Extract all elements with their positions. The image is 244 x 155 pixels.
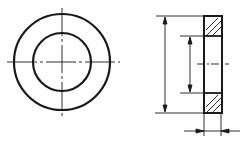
- section-view: [155, 16, 240, 136]
- outer-diameter-dimension: [155, 16, 204, 113]
- washer-drawing: [0, 0, 244, 155]
- inner-diameter-dimension: [180, 36, 204, 93]
- hatching-top: [206, 18, 221, 36]
- front-view: [7, 8, 120, 119]
- washer-section-outline: [204, 16, 222, 113]
- thickness-dimension: [184, 113, 240, 136]
- hatching-bottom: [206, 95, 221, 113]
